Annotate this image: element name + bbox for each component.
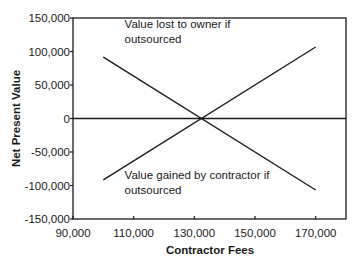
y-tick-label: 150,000: [28, 12, 70, 24]
x-tick-label: 150,000: [234, 227, 276, 239]
x-axis-title: Contractor Fees: [166, 244, 254, 256]
x-tick-label: 90,000: [55, 227, 90, 239]
y-tick-label: -150,000: [25, 213, 70, 225]
npv-chart: 150,000100,00050,0000-50,000-100,000-150…: [0, 0, 358, 267]
y-axis-title: Net Present Value: [10, 70, 22, 167]
x-tick-label: 130,000: [174, 227, 216, 239]
annotation-value-gained: Value gained by contractor ifoutsourced: [125, 169, 271, 196]
y-tick-label: 100,000: [28, 46, 70, 58]
annotations: Value lost to owner ifoutsourcedValue ga…: [125, 18, 271, 196]
x-tick-label: 170,000: [295, 227, 337, 239]
y-tick-label: 50,000: [35, 79, 70, 91]
annotation-value-lost: Value lost to owner ifoutsourced: [125, 18, 232, 45]
x-tick-label: 110,000: [113, 227, 154, 239]
y-tick-label: -50,000: [31, 146, 70, 158]
y-tick-label: -100,000: [25, 180, 70, 192]
y-tick-label: 0: [64, 113, 70, 125]
series-value-gained-by-contractor: [103, 47, 315, 180]
y-axis-ticks: 150,000100,00050,0000-50,000-100,000-150…: [25, 12, 73, 225]
